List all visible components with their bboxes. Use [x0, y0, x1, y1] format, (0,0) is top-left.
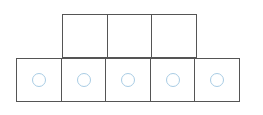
- bottom-cell-1[interactable]: [16, 58, 62, 102]
- counter-circle-icon: [121, 73, 135, 87]
- cell-grid-diagram: [0, 0, 263, 115]
- counter-circle-icon: [32, 73, 46, 87]
- bottom-cell-2[interactable]: [61, 58, 107, 102]
- top-cell-2[interactable]: [107, 14, 153, 58]
- bottom-row: [16, 58, 240, 102]
- bottom-cell-5[interactable]: [194, 58, 240, 102]
- top-cell-1[interactable]: [62, 14, 108, 58]
- bottom-cell-3[interactable]: [105, 58, 151, 102]
- counter-circle-icon: [77, 73, 91, 87]
- top-cell-3[interactable]: [151, 14, 197, 58]
- top-row: [62, 14, 197, 58]
- bottom-cell-4[interactable]: [150, 58, 196, 102]
- counter-circle-icon: [166, 73, 180, 87]
- counter-circle-icon: [210, 73, 224, 87]
